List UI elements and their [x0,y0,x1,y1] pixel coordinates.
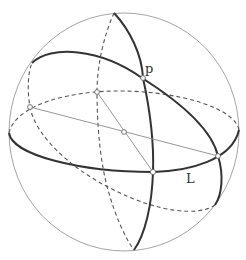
equator-back [9,91,239,133]
meridian-front [114,13,153,250]
meridian-back [97,13,134,250]
point-front-bottom [150,169,155,174]
sphere-svg: p L [0,0,246,260]
equator-front [9,130,239,172]
point-right [216,154,221,159]
label-p: p [145,61,153,76]
point-center [122,130,127,135]
point-back-top [95,90,100,95]
tilted-circle-back [28,63,215,211]
label-L: L [186,171,195,186]
point-left [28,105,33,110]
point-p [141,76,146,81]
sphere-diagram: p L [0,0,246,260]
